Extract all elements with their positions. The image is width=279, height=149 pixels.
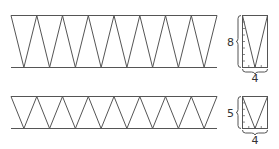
top-unit-triangle	[236, 16, 268, 75]
bottom-height-label: 5	[227, 107, 234, 120]
triangle-bands-diagram: 8 4 5 4	[0, 0, 279, 149]
bottom-width-label: 4	[252, 134, 259, 147]
bottom-unit-triangle	[236, 97, 268, 136]
bottom-band	[11, 97, 217, 129]
top-width-label: 4	[252, 72, 259, 85]
top-band	[11, 16, 217, 68]
top-height-label: 8	[227, 36, 234, 49]
